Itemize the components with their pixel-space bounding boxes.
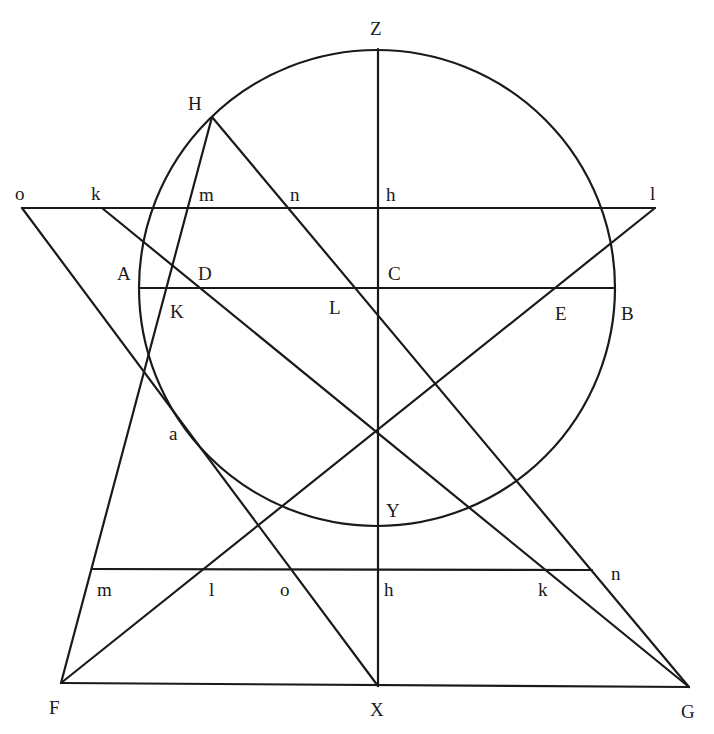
line-m-n-lower-horizontal	[92, 569, 592, 570]
point-label: l	[209, 579, 214, 600]
point-label: Z	[370, 18, 382, 39]
diagram-shapes	[22, 49, 689, 687]
point-label: C	[388, 263, 401, 284]
point-label: n	[611, 563, 621, 584]
point-label: B	[621, 303, 634, 324]
point-label: o	[15, 183, 25, 204]
point-label: E	[555, 303, 567, 324]
point-label: K	[170, 301, 184, 322]
line-H-F	[61, 117, 212, 683]
point-label: D	[198, 263, 212, 284]
point-label: F	[49, 697, 60, 718]
point-label: l	[650, 183, 655, 204]
point-label: o	[280, 579, 290, 600]
point-label: L	[329, 297, 341, 318]
point-label: h	[386, 184, 396, 205]
line-l-F	[61, 208, 655, 683]
point-label: H	[188, 93, 202, 114]
point-label: X	[370, 699, 384, 720]
point-label: h	[384, 579, 394, 600]
point-label: n	[290, 184, 300, 205]
point-label: G	[681, 701, 695, 722]
point-label: m	[97, 579, 112, 600]
line-H-G	[212, 117, 689, 687]
geometric-diagram: ZHokmnhlADCKLEBaYnmlohkFXG	[0, 0, 714, 734]
point-label: m	[199, 184, 214, 205]
point-label: A	[117, 263, 131, 284]
point-label: k	[538, 579, 548, 600]
diagram-labels: ZHokmnhlADCKLEBaYnmlohkFXG	[15, 18, 695, 722]
point-label: Y	[386, 500, 400, 521]
point-label: k	[91, 183, 101, 204]
point-label: a	[169, 423, 178, 444]
